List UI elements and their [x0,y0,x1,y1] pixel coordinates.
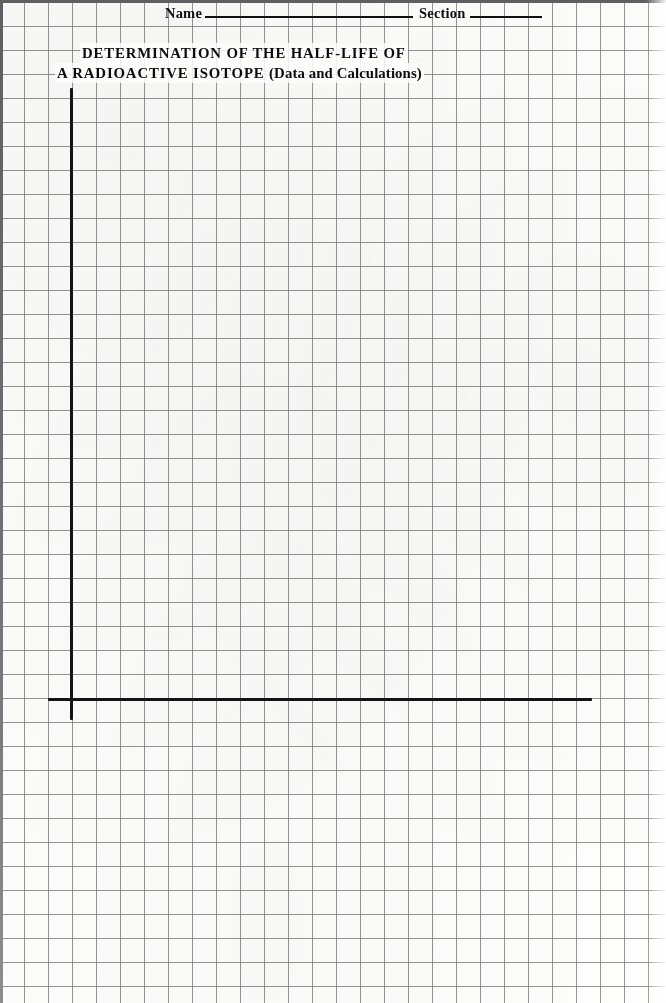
title-line-1: DETERMINATION OF THE HALF-LIFE OF [80,43,408,63]
section-label: Section [419,5,466,22]
name-label: Name [165,5,202,22]
page-left-edge [0,0,3,1003]
name-section-header: Name Section [0,5,666,27]
page-top-edge [0,0,666,3]
graph-paper-grid [0,0,666,1003]
worksheet-title: DETERMINATION OF THE HALF-LIFE OF A RADI… [0,43,666,83]
name-write-in-field[interactable] [205,16,413,18]
title-parenthetical: (Data and Calculations) [269,65,422,81]
title-line-2: A RADIOACTIVE ISOTOPE (Data and Calculat… [55,63,424,83]
worksheet-page: Name Section DETERMINATION OF THE HALF-L… [0,0,666,1003]
section-write-in-field[interactable] [470,16,542,18]
title-line-2-main: A RADIOACTIVE ISOTOPE [57,65,265,81]
